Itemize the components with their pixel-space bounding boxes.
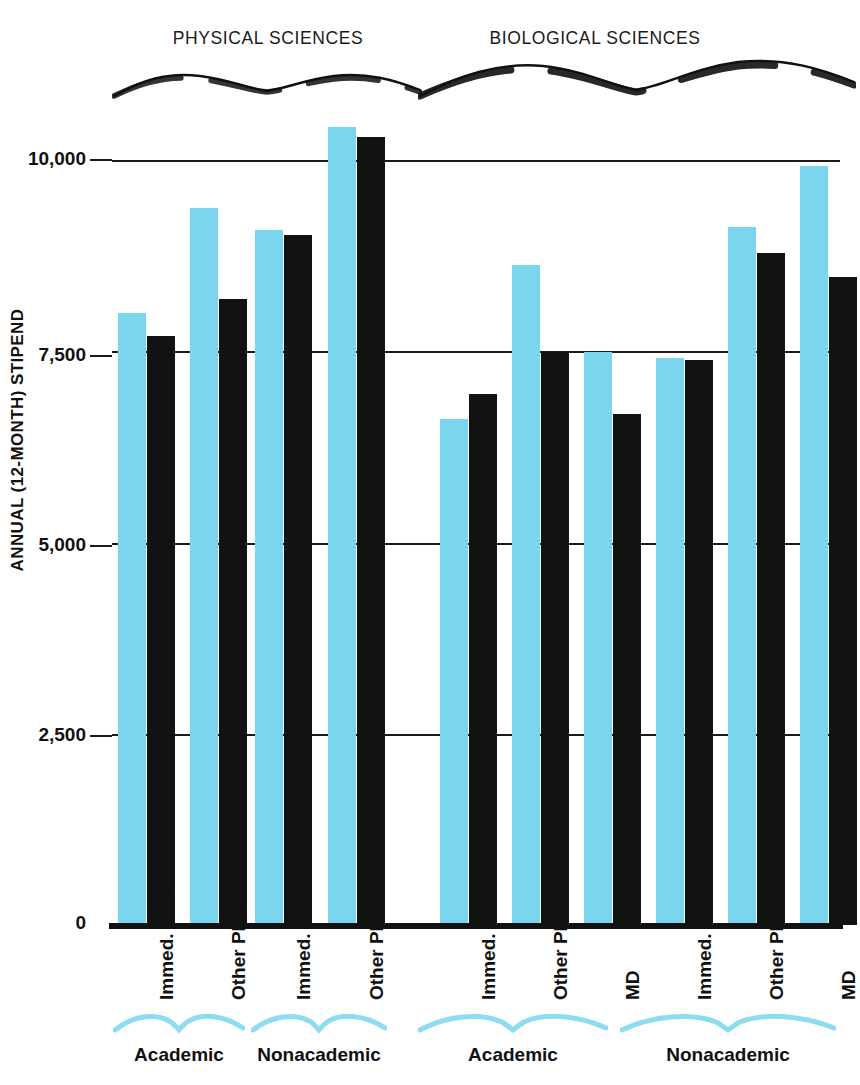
sector-label-physical-nonacademic: Nonacademic xyxy=(245,1044,393,1066)
bar-blue-6 xyxy=(584,352,612,925)
bottom-brace-physical-nonacademic-icon xyxy=(251,1010,387,1036)
bar-blue-5 xyxy=(512,265,540,925)
bottom-brace-biological-academic-icon xyxy=(418,1010,608,1036)
bar-black-0 xyxy=(147,336,175,925)
x-tick-label-9: MD xyxy=(838,970,860,1000)
bottom-brace-biological-nonacademic-icon xyxy=(620,1010,836,1036)
x-tick-label-7: Immed. PhD xyxy=(694,890,716,1000)
bar-black-1 xyxy=(219,299,247,925)
bar-black-5 xyxy=(541,352,569,925)
y-tick-label-10000: 10,000 xyxy=(18,148,86,170)
sector-label-biological-academic: Academic xyxy=(418,1044,608,1066)
top-brace-biological-icon xyxy=(418,52,856,100)
bar-blue-1 xyxy=(190,208,218,925)
x-tick-label-3: Other PhD xyxy=(366,906,388,1000)
y-tick-label-7500: 7,500 xyxy=(18,344,86,366)
x-tick-label-2: Immed. PhD xyxy=(293,890,315,1000)
y-tick-mark-2500 xyxy=(90,735,112,737)
bar-black-8 xyxy=(757,253,785,925)
x-tick-label-1: Other PhD xyxy=(228,906,250,1000)
section-header-physical-sciences: PHYSICAL SCIENCES xyxy=(118,28,418,49)
x-tick-label-0: Immed. PhD xyxy=(156,890,178,1000)
y-axis-title: ANNUAL (12-MONTH) STIPEND xyxy=(8,160,28,720)
sector-label-physical-academic: Academic xyxy=(113,1044,245,1066)
y-tick-label-0: 0 xyxy=(18,912,86,934)
gridline-10000 xyxy=(112,160,840,162)
bar-blue-3 xyxy=(328,127,356,925)
bar-black-6 xyxy=(613,414,641,925)
bottom-brace-physical-academic-icon xyxy=(113,1010,245,1036)
bar-blue-4 xyxy=(440,419,468,925)
sector-label-biological-nonacademic: Nonacademic xyxy=(618,1044,838,1066)
bar-blue-9 xyxy=(800,166,828,925)
bar-black-9 xyxy=(829,277,857,925)
bar-blue-7 xyxy=(656,358,684,925)
y-tick-label-2500: 2,500 xyxy=(18,724,86,746)
bar-black-3 xyxy=(357,137,385,925)
x-tick-label-6: MD xyxy=(622,970,644,1000)
section-header-biological-sciences: BIOLOGICAL SCIENCES xyxy=(430,28,760,49)
bar-black-4 xyxy=(469,394,497,925)
top-brace-physical-icon xyxy=(112,58,422,100)
y-tick-mark-5000 xyxy=(90,545,112,547)
bar-black-2 xyxy=(284,235,312,925)
y-tick-mark-10000 xyxy=(90,159,112,161)
x-axis-baseline xyxy=(109,923,843,929)
x-tick-label-5: Other PhD xyxy=(550,906,572,1000)
x-tick-label-4: Immed. PhD xyxy=(478,890,500,1000)
bar-blue-2 xyxy=(255,230,283,925)
plot-area xyxy=(112,160,840,925)
y-tick-label-5000: 5,000 xyxy=(18,534,86,556)
y-tick-mark-7500 xyxy=(90,355,112,357)
bar-black-7 xyxy=(685,360,713,925)
bar-blue-0 xyxy=(118,313,146,925)
x-tick-label-8: Other PhD xyxy=(766,906,788,1000)
bar-blue-8 xyxy=(728,227,756,925)
